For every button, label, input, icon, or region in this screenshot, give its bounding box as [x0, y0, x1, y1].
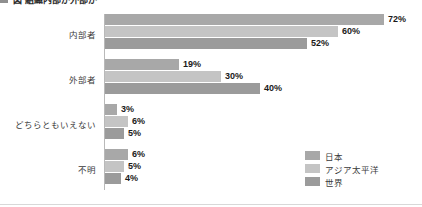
square-marker-icon — [0, 0, 8, 3]
legend-item-world: 世界 — [305, 176, 379, 187]
bar-value: 30% — [225, 70, 243, 82]
category-label: 不明 — [0, 165, 96, 176]
bar-japan — [105, 59, 179, 70]
category-label: 内部者 — [0, 30, 96, 41]
bar-value: 60% — [342, 25, 360, 37]
bar-world — [105, 128, 124, 139]
bar-japan — [105, 104, 117, 115]
bar-value: 40% — [264, 82, 282, 94]
legend-item-asiapacific: アジア太平洋 — [305, 163, 379, 174]
bar-group: 内部者 72% 60% 52% — [0, 14, 422, 59]
bottom-divider — [0, 204, 422, 205]
bar-asiapacific — [105, 71, 221, 82]
bar-value: 4% — [125, 172, 138, 184]
legend-label: アジア太平洋 — [325, 163, 379, 175]
bar-value: 6% — [132, 115, 145, 127]
bar-value: 3% — [121, 103, 134, 115]
chart-title-text: 図 組織内部か外部か — [13, 0, 97, 6]
bar-japan — [105, 14, 384, 25]
bar-value: 72% — [388, 13, 406, 25]
bar-group: 外部者 19% 30% 40% — [0, 59, 422, 104]
bar-japan — [105, 149, 128, 160]
category-label: 外部者 — [0, 75, 96, 86]
category-label: どちらともいえない — [0, 120, 96, 131]
bar-value: 6% — [132, 148, 145, 160]
bar-world — [105, 38, 307, 49]
chart-legend: 日本 アジア太平洋 世界 — [305, 150, 379, 187]
legend-swatch-icon — [305, 177, 320, 186]
bar-asiapacific — [105, 161, 124, 172]
legend-label: 世界 — [325, 176, 343, 188]
bar-group: どちらともいえない 3% 6% 5% — [0, 104, 422, 149]
legend-swatch-icon — [305, 164, 320, 173]
bar-value: 5% — [128, 160, 141, 172]
bar-asiapacific — [105, 26, 338, 37]
bar-asiapacific — [105, 116, 128, 127]
legend-swatch-icon — [305, 151, 320, 160]
bar-chart: 図 組織内部か外部か 内部者 72% 60% 52% 外部者 1 — [0, 0, 422, 207]
legend-item-japan: 日本 — [305, 150, 379, 161]
bar-world — [105, 83, 260, 94]
chart-title: 図 組織内部か外部か — [0, 0, 97, 5]
legend-label: 日本 — [325, 150, 343, 162]
bar-value: 5% — [128, 127, 141, 139]
bar-value: 52% — [311, 37, 329, 49]
bar-world — [105, 173, 121, 184]
bar-value: 19% — [183, 58, 201, 70]
